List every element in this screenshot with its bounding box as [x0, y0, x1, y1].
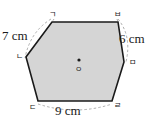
vertex-label-middle-right: ㅁ [129, 59, 136, 67]
side-length-label-right: 6 cm [119, 32, 145, 45]
vertex-label-middle-left: ㄴ [16, 53, 23, 61]
vertex-label-bottom-left: ㄷ [29, 104, 36, 112]
side-length-label-bottom: 9 cm [55, 104, 81, 117]
hexagon-shape [26, 22, 124, 101]
hexagon-figure: 7 cm 6 cm 9 cm ㄱ ㅂ ㄴ ㅁ ㄷ ㄹ ㅇ [0, 0, 156, 137]
center-point-label: ㅇ [75, 66, 82, 74]
vertex-label-top-right: ㅂ [114, 11, 121, 19]
vertex-label-bottom-right: ㄹ [114, 102, 121, 110]
side-length-label-left: 7 cm [2, 29, 28, 42]
center-point-dot [77, 58, 80, 61]
vertex-label-top-left: ㄱ [49, 11, 56, 19]
